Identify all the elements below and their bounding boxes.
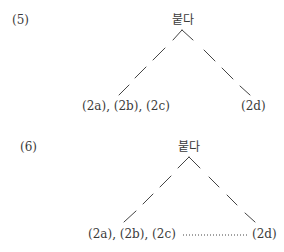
tree-5-right-branch [182, 30, 250, 95]
tree-branches [0, 0, 284, 252]
tree-5-left-branch [119, 30, 182, 95]
tree-6-left-branch [124, 157, 189, 222]
tree-6-right-branch [189, 157, 255, 222]
